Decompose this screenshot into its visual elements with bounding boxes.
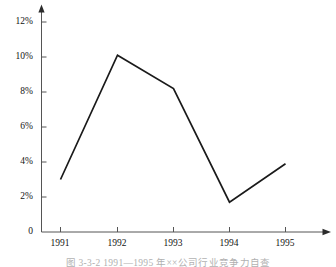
y-tick-label-12: 12% — [0, 17, 33, 27]
y-tick-label-8: 8% — [0, 87, 33, 97]
x-tick-label-1994: 1994 — [220, 239, 239, 249]
y-tick-label-2: 2% — [0, 192, 33, 202]
figure-container: 12% 10% 8% 6% 4% 2% 0 1991 1992 1993 199… — [0, 0, 336, 267]
y-axis-arrow-icon — [38, 5, 44, 13]
x-axis-arrow-icon — [323, 229, 332, 235]
x-axis — [42, 229, 332, 235]
data-series-line — [61, 55, 286, 202]
figure-caption: 图 3-3-2 1991—1995 年××公司行业竞争力自查 — [0, 257, 336, 267]
line-chart-plot — [0, 0, 336, 267]
x-axis-ticks — [61, 227, 286, 232]
y-tick-label-0: 0 — [0, 227, 33, 237]
y-axis-ticks — [42, 22, 47, 197]
y-tick-label-6: 6% — [0, 122, 33, 132]
y-axis — [38, 5, 44, 233]
x-tick-label-1995: 1995 — [276, 239, 295, 249]
x-tick-label-1993: 1993 — [164, 239, 183, 249]
x-tick-label-1991: 1991 — [51, 239, 70, 249]
y-tick-label-10: 10% — [0, 52, 33, 62]
y-tick-label-4: 4% — [0, 157, 33, 167]
x-tick-label-1992: 1992 — [108, 239, 127, 249]
